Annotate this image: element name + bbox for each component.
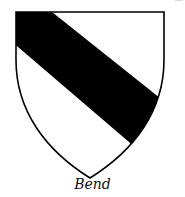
corner-mark: [175, 0, 183, 5]
figure-caption: Bend: [0, 176, 185, 192]
shield-diagram: [0, 0, 185, 197]
